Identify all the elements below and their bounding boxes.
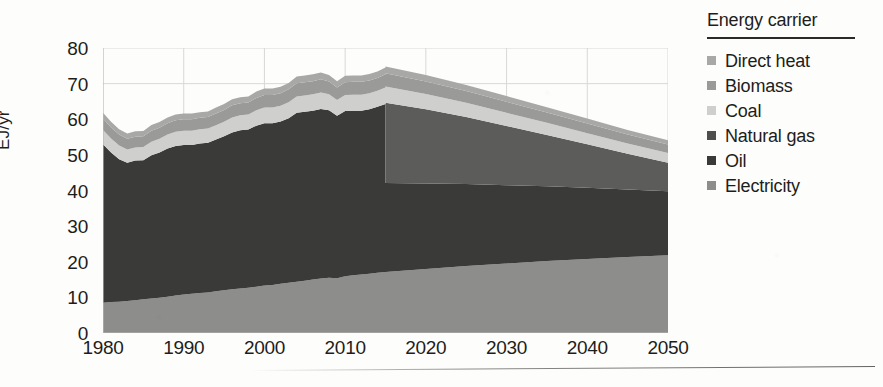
legend-divider — [707, 37, 855, 39]
legend-title: Energy carrier — [707, 10, 875, 31]
y-axis-tick-40: 40 — [67, 181, 88, 200]
y-axis-tick-70: 70 — [67, 74, 88, 93]
legend-swatch-icon — [707, 156, 716, 165]
legend-swatch-icon — [707, 81, 716, 90]
legend-swatch-icon — [707, 131, 716, 140]
legend-item-label: Direct heat — [725, 52, 810, 70]
x-axis-tick-2030: 2030 — [486, 338, 527, 357]
legend-item-oil[interactable]: Oil — [707, 148, 875, 173]
legend-swatch-icon — [707, 106, 716, 115]
chart-figure: EJ/yr 80706050403020100 1980199020002010… — [0, 0, 883, 387]
legend-swatch-icon — [707, 181, 716, 190]
legend-swatch-icon — [707, 56, 716, 65]
area-series-group — [103, 67, 668, 333]
y-axis-tick-80: 80 — [67, 39, 88, 58]
y-axis-tick-labels: 80706050403020100 — [0, 48, 96, 333]
legend-item-label: Natural gas — [725, 127, 815, 145]
legend-item-electricity[interactable]: Electricity — [707, 173, 875, 198]
legend-item-natural-gas[interactable]: Natural gas — [707, 123, 875, 148]
legend-item-biomass[interactable]: Biomass — [707, 73, 875, 98]
legend-item-label: Oil — [725, 152, 746, 170]
x-axis-tick-1990: 1990 — [163, 338, 204, 357]
y-axis-tick-10: 10 — [67, 288, 88, 307]
x-axis-tick-2040: 2040 — [567, 338, 608, 357]
legend-item-label: Coal — [725, 102, 761, 120]
y-axis-tick-30: 30 — [67, 217, 88, 236]
x-axis-tick-2020: 2020 — [405, 338, 446, 357]
stacked-area-plot — [103, 48, 668, 333]
legend: Energy carrier Direct heatBiomassCoalNat… — [707, 10, 875, 198]
legend-item-direct-heat[interactable]: Direct heat — [707, 48, 875, 73]
y-axis-tick-60: 60 — [67, 110, 88, 129]
x-axis-tick-2050: 2050 — [647, 338, 688, 357]
legend-item-list: Direct heatBiomassCoalNatural gasOilElec… — [707, 48, 875, 198]
scan-artifact-line — [250, 366, 875, 371]
plot-area — [103, 48, 668, 333]
legend-item-label: Electricity — [725, 177, 800, 195]
x-axis-tick-2010: 2010 — [325, 338, 366, 357]
x-axis-tick-labels: 19801990200020102020203020402050 — [103, 338, 668, 366]
legend-item-coal[interactable]: Coal — [707, 98, 875, 123]
legend-item-label: Biomass — [725, 77, 793, 95]
x-axis-tick-2000: 2000 — [244, 338, 285, 357]
x-axis-tick-1980: 1980 — [82, 338, 123, 357]
y-axis-tick-50: 50 — [67, 145, 88, 164]
y-axis-tick-20: 20 — [67, 252, 88, 271]
